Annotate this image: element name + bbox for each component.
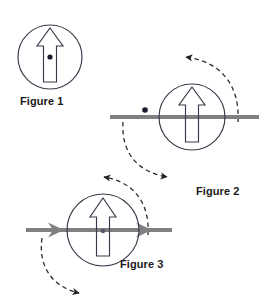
figure-2-label: Figure 2 <box>196 185 240 197</box>
figure-2-group <box>110 57 259 177</box>
figure-3-label: Figure 3 <box>120 258 164 270</box>
figure-3-center-dot <box>101 229 105 233</box>
figure-1-center-dot <box>47 54 52 59</box>
figure-1-label: Figure 1 <box>20 95 64 107</box>
figure-3-rotation-arc-bottom <box>41 238 79 293</box>
figure-2-offset-dot <box>142 107 148 113</box>
diagram-root: Figure 1 Figure 2 Figure 3 <box>0 0 266 307</box>
figure-1-group <box>18 25 82 89</box>
figure-2-rotation-arc-bottom <box>123 122 167 177</box>
figure-2-up-arrow-icon <box>179 87 205 142</box>
figure-3-group <box>26 177 172 293</box>
figure-3-up-arrow-icon <box>90 198 116 256</box>
